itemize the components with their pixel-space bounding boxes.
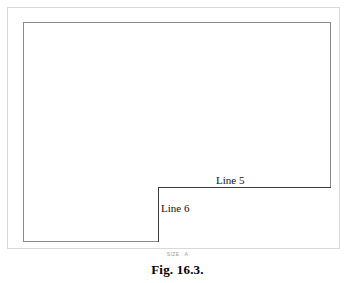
figure-caption: Fig. 16.3. [0, 262, 355, 278]
callout-label-line-6: Line 6 [161, 203, 189, 214]
callout-label-line-5: Line 5 [216, 175, 244, 186]
sheet-size-stamp: SIZE : A [0, 251, 355, 257]
figure-stage: Line 5 Line 6 SIZE : A Fig. 16.3. [0, 0, 355, 283]
title-block [158, 187, 331, 242]
